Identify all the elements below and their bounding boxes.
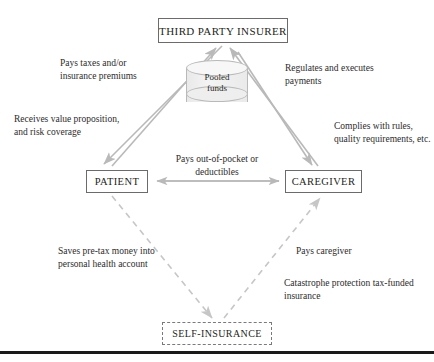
edge-label-saves-pre-tax-money: Saves pre-tax money into personal health… — [58, 245, 162, 270]
node-patient[interactable]: PATIENT — [86, 170, 148, 193]
node-self-insurance[interactable]: SELF-INSURANCE — [162, 322, 272, 345]
node-third-party-insurer-label: THIRD PARTY INSURER — [159, 25, 287, 37]
edge-label-complies-with-rules: Complies with rules, quality requirement… — [334, 120, 432, 145]
pooled-funds-label: Pooled funds — [186, 72, 248, 94]
edge-label-pays-out-of-pocket: Pays out-of-pocket or deductibles — [156, 153, 278, 178]
edge-label-receives-value: Receives value proposition, and risk cov… — [14, 113, 126, 138]
edge-label-pays-taxes: Pays taxes and/or insurance premiums — [60, 57, 156, 82]
bottom-divider-rule — [0, 351, 434, 354]
node-patient-label: PATIENT — [95, 176, 139, 187]
pooled-funds-line-2: funds — [186, 83, 248, 94]
node-self-insurance-label: SELF-INSURANCE — [172, 328, 262, 339]
edge-label-catastrophe-protection: Catastrophe protection tax-funded insura… — [284, 277, 420, 302]
arrow-layer — [0, 0, 434, 362]
pooled-funds-cylinder-icon: Pooled funds — [186, 60, 248, 110]
edge-label-pays-caregiver: Pays caregiver — [296, 245, 406, 258]
node-caregiver-label: CAREGIVER — [292, 176, 356, 187]
edge-label-regulates-and-executes: Regulates and executes payments — [285, 62, 385, 87]
pooled-funds-line-1: Pooled — [186, 72, 248, 83]
node-third-party-insurer[interactable]: THIRD PARTY INSURER — [158, 18, 288, 43]
diagram-canvas: THIRD PARTY INSURER PATIENT CAREGIVER SE… — [0, 0, 434, 362]
node-caregiver[interactable]: CAREGIVER — [285, 170, 362, 193]
